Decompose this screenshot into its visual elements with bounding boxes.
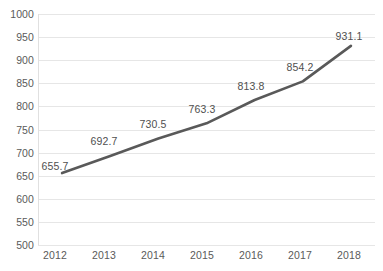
x-axis-tick-label: 2018: [337, 249, 361, 261]
x-axis: 2012 2013 2014 2015 2016 2017 2018: [38, 249, 375, 267]
data-label: 692.7: [91, 136, 118, 147]
x-axis-tick-label: 2017: [288, 249, 312, 261]
x-axis-tick-label: 2012: [43, 249, 67, 261]
x-axis-tick-label: 2013: [92, 249, 116, 261]
x-axis-tick-label: 2014: [141, 249, 165, 261]
data-label: 730.5: [140, 119, 167, 130]
data-label: 931.1: [336, 31, 363, 42]
x-axis-tick-label: 2015: [190, 249, 214, 261]
data-label: 763.3: [189, 104, 216, 115]
line-chart: 1000 950 900 850 800 750 700 650 600 550…: [0, 0, 383, 271]
x-axis-tick-label: 2016: [239, 249, 263, 261]
series-line: [0, 0, 383, 271]
data-label: 854.2: [287, 62, 314, 73]
data-label: 813.8: [238, 81, 265, 92]
data-label: 655.7: [42, 161, 69, 172]
